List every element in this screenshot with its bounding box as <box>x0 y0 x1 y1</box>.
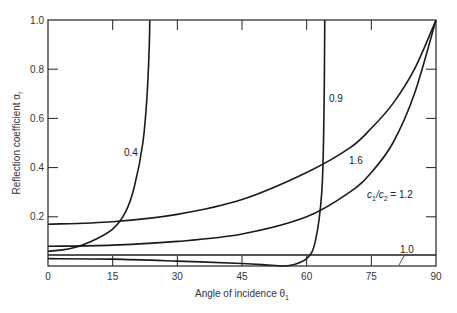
y-tick-label: 0.6 <box>30 113 44 124</box>
curve-label-1.0: 1.0 <box>400 244 414 255</box>
plot-area <box>48 20 436 266</box>
curve-0.9 <box>48 20 325 266</box>
x-tick-label: 15 <box>107 271 119 282</box>
chart: 01530456075900.20.40.60.81.0 0.4 0.9 1.6… <box>0 0 457 313</box>
curve-0.4 <box>48 20 150 251</box>
curve-label-0.4: 0.4 <box>124 147 138 158</box>
y-tick-label: 0.2 <box>30 211 44 222</box>
y-axis-title: Reflection coefficient αr <box>11 91 24 195</box>
x-tick-label: 90 <box>430 271 442 282</box>
x-axis-title: Angle of incidence θ1 <box>195 288 289 301</box>
x-tick-label: 0 <box>45 271 51 282</box>
x-tick-label: 30 <box>172 271 184 282</box>
x-tick-label: 45 <box>236 271 248 282</box>
y-tick-label: 1.0 <box>30 15 44 26</box>
y-tick-label: 0.4 <box>30 162 44 173</box>
curve-label-1.0-leader <box>399 256 404 265</box>
x-tick-label: 60 <box>301 271 313 282</box>
curve-label-1.2: c1/c2 = 1.2 <box>367 189 413 202</box>
curve-1.2 <box>48 20 436 246</box>
x-tick-label: 75 <box>366 271 378 282</box>
y-tick-label: 0.8 <box>30 64 44 75</box>
curve-label-0.9: 0.9 <box>329 93 343 104</box>
curve-label-1.6: 1.6 <box>349 155 363 166</box>
plot-frame <box>48 20 436 266</box>
